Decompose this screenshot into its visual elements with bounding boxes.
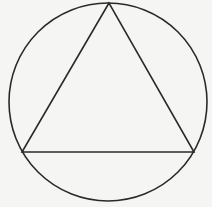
circumscribed-circle [9, 3, 207, 201]
diagram-canvas [0, 0, 212, 207]
inscribed-triangle [22, 3, 194, 152]
